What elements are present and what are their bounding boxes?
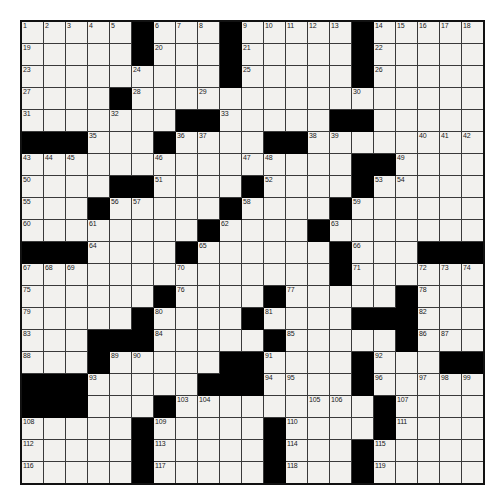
crossword-cell[interactable]: 22 [374,44,396,66]
crossword-cell[interactable]: 94 [264,374,286,396]
crossword-cell[interactable] [264,44,286,66]
crossword-cell[interactable] [154,242,176,264]
crossword-cell[interactable] [66,462,88,485]
crossword-cell[interactable]: 114 [286,440,308,462]
crossword-cell[interactable]: 69 [66,264,88,286]
crossword-cell[interactable] [220,132,242,154]
crossword-cell[interactable]: 91 [264,352,286,374]
crossword-cell[interactable] [88,110,110,132]
crossword-cell[interactable] [440,220,462,242]
crossword-cell[interactable] [220,286,242,308]
crossword-cell[interactable] [418,462,440,485]
crossword-cell[interactable] [440,396,462,418]
crossword-cell[interactable] [462,110,485,132]
crossword-cell[interactable] [198,462,220,485]
crossword-cell[interactable]: 40 [418,132,440,154]
crossword-cell[interactable] [44,418,66,440]
crossword-cell[interactable] [88,462,110,485]
crossword-cell[interactable] [154,66,176,88]
crossword-cell[interactable] [440,176,462,198]
crossword-cell[interactable]: 4 [88,21,110,44]
crossword-cell[interactable] [44,44,66,66]
crossword-cell[interactable] [132,154,154,176]
crossword-cell[interactable] [418,220,440,242]
crossword-cell[interactable] [352,220,374,242]
crossword-cell[interactable] [44,330,66,352]
crossword-cell[interactable] [286,44,308,66]
crossword-cell[interactable] [66,220,88,242]
crossword-cell[interactable]: 103 [176,396,198,418]
crossword-cell[interactable]: 48 [264,154,286,176]
crossword-cell[interactable] [66,330,88,352]
crossword-cell[interactable] [44,440,66,462]
crossword-cell[interactable]: 80 [154,308,176,330]
crossword-cell[interactable] [220,242,242,264]
crossword-cell[interactable]: 46 [154,154,176,176]
crossword-cell[interactable]: 11 [286,21,308,44]
crossword-cell[interactable] [154,88,176,110]
crossword-cell[interactable] [418,88,440,110]
crossword-cell[interactable] [242,418,264,440]
crossword-cell[interactable]: 7 [176,21,198,44]
crossword-cell[interactable]: 19 [21,44,44,66]
crossword-cell[interactable]: 45 [66,154,88,176]
crossword-cell[interactable] [418,176,440,198]
crossword-cell[interactable]: 111 [396,418,418,440]
crossword-cell[interactable]: 97 [418,374,440,396]
crossword-cell[interactable] [462,418,485,440]
crossword-cell[interactable] [154,110,176,132]
crossword-cell[interactable]: 112 [21,440,44,462]
crossword-cell[interactable]: 15 [396,21,418,44]
crossword-cell[interactable] [396,220,418,242]
crossword-cell[interactable] [396,132,418,154]
crossword-cell[interactable] [88,44,110,66]
crossword-cell[interactable]: 36 [176,132,198,154]
crossword-cell[interactable]: 56 [110,198,132,220]
crossword-cell[interactable]: 95 [286,374,308,396]
crossword-cell[interactable] [462,330,485,352]
crossword-cell[interactable]: 44 [44,154,66,176]
crossword-cell[interactable] [286,66,308,88]
crossword-cell[interactable] [88,396,110,418]
crossword-cell[interactable] [66,44,88,66]
crossword-cell[interactable]: 9 [242,21,264,44]
crossword-cell[interactable]: 61 [88,220,110,242]
crossword-cell[interactable] [176,352,198,374]
crossword-cell[interactable]: 104 [198,396,220,418]
crossword-cell[interactable] [66,88,88,110]
crossword-cell[interactable] [462,154,485,176]
crossword-cell[interactable]: 8 [198,21,220,44]
crossword-cell[interactable] [308,330,330,352]
crossword-cell[interactable] [462,308,485,330]
crossword-cell[interactable] [418,440,440,462]
crossword-cell[interactable]: 28 [132,88,154,110]
crossword-cell[interactable] [198,154,220,176]
crossword-cell[interactable]: 71 [352,264,374,286]
crossword-cell[interactable]: 25 [242,66,264,88]
crossword-cell[interactable] [220,176,242,198]
crossword-cell[interactable] [220,308,242,330]
crossword-cell[interactable] [110,440,132,462]
crossword-cell[interactable]: 41 [440,132,462,154]
crossword-cell[interactable] [462,462,485,485]
crossword-cell[interactable] [396,440,418,462]
crossword-cell[interactable] [330,462,352,485]
crossword-cell[interactable] [110,308,132,330]
crossword-cell[interactable] [242,110,264,132]
crossword-cell[interactable]: 87 [440,330,462,352]
crossword-cell[interactable]: 93 [88,374,110,396]
crossword-cell[interactable] [286,154,308,176]
crossword-cell[interactable] [396,44,418,66]
crossword-cell[interactable]: 12 [308,21,330,44]
crossword-cell[interactable] [352,132,374,154]
crossword-grid[interactable]: 1234567891011121314151617181920212223242… [20,20,485,485]
crossword-cell[interactable]: 58 [242,198,264,220]
crossword-cell[interactable] [242,330,264,352]
crossword-cell[interactable] [374,198,396,220]
crossword-cell[interactable]: 77 [286,286,308,308]
crossword-cell[interactable]: 105 [308,396,330,418]
crossword-cell[interactable]: 10 [264,21,286,44]
crossword-cell[interactable]: 31 [21,110,44,132]
crossword-cell[interactable] [220,462,242,485]
crossword-cell[interactable] [132,242,154,264]
